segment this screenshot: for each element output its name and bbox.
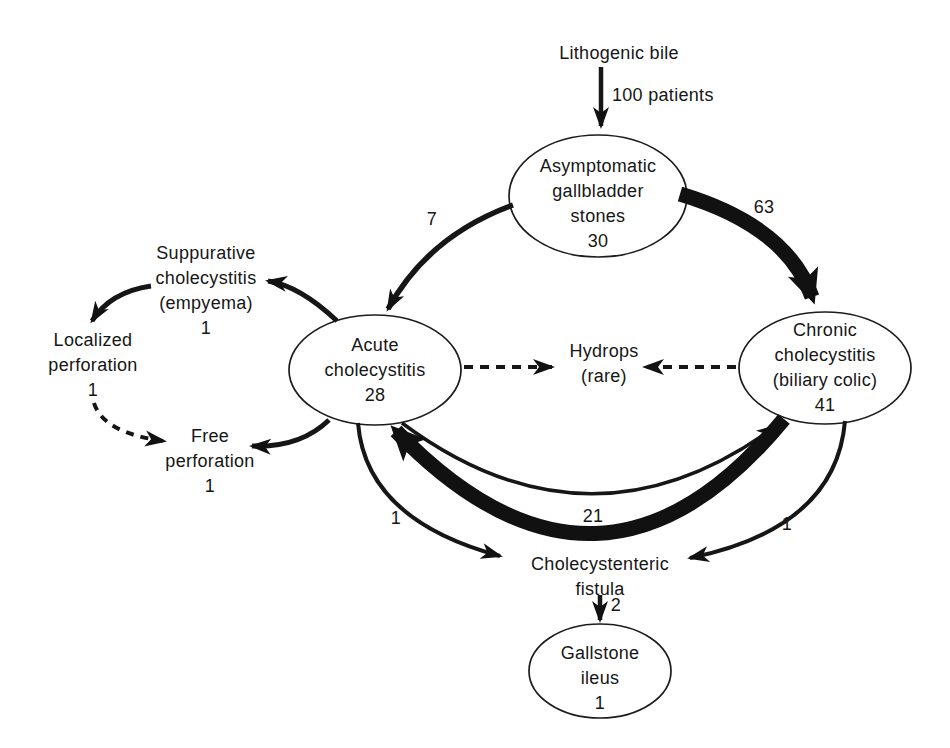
node-lithogenic-bile: Lithogenic bile [559,41,679,66]
node-line: (rare) [569,364,638,389]
node-line: Asymptomatic [540,154,657,179]
node-line: Chronic [773,318,878,343]
node-label: Lithogenic bile [559,41,679,66]
edge-label-1-acute-fistula: 1 [391,506,401,531]
node-line: (empyema) [156,291,257,316]
edge-label-100-patients: 100 patients [612,85,714,106]
node-line: Suppurative [156,241,257,266]
node-line: gallbladder [540,179,657,204]
node-line: cholecystitis [325,358,426,383]
node-asymptomatic-stones: Asymptomatic gallbladder stones 30 [540,154,657,254]
edge-asymptomatic-to-acute [388,205,513,309]
edge-suppurative-to-localized-perforation [92,286,151,321]
edge-label-7: 7 [427,207,437,232]
edge-label-63: 63 [754,195,775,220]
node-acute-cholecystitis: Acute cholecystitis 28 [325,333,426,408]
node-count: 41 [773,393,878,418]
edge-asymptomatic-to-chronic [680,194,812,297]
node-gallstone-ileus: Gallstone ileus 1 [561,641,640,716]
edge-label-21: 21 [583,504,604,529]
node-count: 1 [48,378,137,403]
node-line: perforation [48,353,137,378]
node-line: Gallstone [561,641,640,666]
node-line: Acute [325,333,426,358]
node-line: fistula [531,577,669,602]
node-cholecystenteric-fistula: Cholecystenteric fistula [531,552,669,602]
node-line: cholecystitis [773,343,878,368]
node-line: ileus [561,666,640,691]
node-line: (biliary colic) [773,368,878,393]
node-count: 28 [325,383,426,408]
edge-localized-to-free-perforation-dashed [94,403,164,441]
edge-label-1-chronic-fistula: 1 [782,512,792,537]
node-chronic-cholecystitis: Chronic cholecystitis (biliary colic) 41 [773,318,878,418]
node-line: cholecystitis [156,266,257,291]
node-suppurative-cholecystitis: Suppurative cholecystitis (empyema) 1 [156,241,257,341]
node-line: stones [540,204,657,229]
edge-acute-to-free-perforation [252,420,329,446]
node-count: 1 [156,316,257,341]
node-count: 1 [561,691,640,716]
node-count: 1 [165,474,254,499]
node-localized-perforation: Localized perforation 1 [48,328,137,403]
node-line: Localized [48,328,137,353]
node-line: Cholecystenteric [531,552,669,577]
node-line: perforation [165,449,254,474]
edge-acute-to-suppurative [268,281,337,321]
node-hydrops: Hydrops (rare) [569,339,638,389]
gallstone-natural-history-diagram: Lithogenic bile 100 patients 7 63 1 21 1… [0,0,950,748]
node-line: Hydrops [569,339,638,364]
node-line: Free [165,424,254,449]
node-count: 30 [540,229,657,254]
node-free-perforation: Free perforation 1 [165,424,254,499]
